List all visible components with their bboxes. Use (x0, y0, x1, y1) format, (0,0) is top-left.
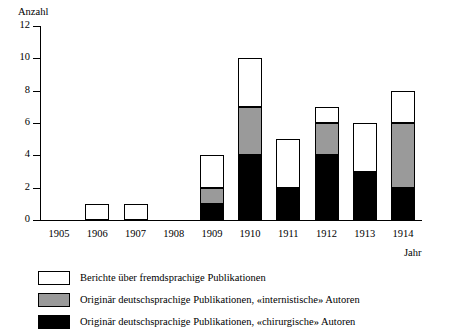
bar-group[interactable] (276, 26, 300, 220)
legend-item-label: Originär deutschsprachige Publikationen,… (80, 294, 360, 306)
bar-group[interactable] (200, 26, 224, 220)
y-tick (33, 188, 40, 189)
bar-segment[interactable] (353, 123, 377, 172)
bar-segment[interactable] (391, 188, 415, 220)
y-tick (33, 26, 40, 27)
y-tick-label: 6 (8, 117, 30, 127)
bar-segment[interactable] (200, 188, 224, 204)
y-tick (33, 220, 40, 221)
y-axis-title: Anzahl (18, 6, 48, 17)
x-axis-title: Jahr (404, 247, 422, 258)
chart-legend: Berichte über fremdsprachige Publikation… (38, 267, 438, 333)
bar-segment[interactable] (391, 91, 415, 123)
bar-segment[interactable] (315, 155, 339, 220)
bar-segment[interactable] (315, 123, 339, 155)
bar-segment[interactable] (200, 155, 224, 187)
bar-group[interactable] (162, 26, 186, 220)
y-tick-label: 4 (8, 149, 30, 159)
legend-item: Originär deutschsprachige Publikationen,… (38, 289, 438, 311)
y-tick (33, 155, 40, 156)
legend-item-label: Berichte über fremdsprachige Publikation… (80, 272, 266, 284)
bar-segment[interactable] (276, 188, 300, 220)
bar-segment[interactable] (391, 123, 415, 188)
y-tick-label: 8 (8, 85, 30, 95)
x-tick-label: 1914 (381, 228, 425, 239)
y-tick (33, 58, 40, 59)
legend-item: Berichte über fremdsprachige Publikation… (38, 267, 438, 289)
bar-segment[interactable] (124, 204, 148, 220)
bar-group[interactable] (85, 26, 109, 220)
bar-segment[interactable] (276, 139, 300, 188)
bar-segment[interactable] (315, 107, 339, 123)
plot-area (40, 26, 422, 220)
bar-group[interactable] (47, 26, 71, 220)
bar-group[interactable] (124, 26, 148, 220)
chart-page: Anzahl Jahr 024681012 190519061907190819… (0, 0, 452, 336)
x-axis-line (40, 220, 422, 221)
legend-white-swatch (38, 271, 70, 285)
y-tick-label: 0 (8, 214, 30, 224)
bar-segment[interactable] (238, 58, 262, 107)
y-tick (33, 123, 40, 124)
bar-segment[interactable] (238, 155, 262, 220)
bar-segment[interactable] (200, 204, 224, 220)
y-tick-label: 2 (8, 182, 30, 192)
bar-group[interactable] (315, 26, 339, 220)
bar-segment[interactable] (85, 204, 109, 220)
y-tick-label: 10 (8, 52, 30, 62)
bar-group[interactable] (353, 26, 377, 220)
bar-group[interactable] (238, 26, 262, 220)
bar-segment[interactable] (353, 172, 377, 221)
y-tick (33, 91, 40, 92)
legend-item: Originär deutschsprachige Publikationen,… (38, 311, 438, 333)
legend-black-swatch (38, 315, 70, 329)
bar-group[interactable] (391, 26, 415, 220)
legend-gray-swatch (38, 293, 70, 307)
legend-item-label: Originär deutschsprachige Publikationen,… (80, 316, 355, 328)
y-tick-label: 12 (8, 20, 30, 30)
bar-segment[interactable] (238, 107, 262, 156)
